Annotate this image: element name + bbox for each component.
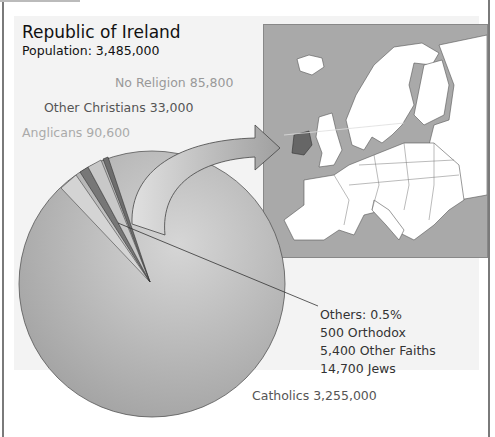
others-orthodox: 500 Orthodox (320, 324, 436, 342)
others-title: Others: 0.5% (320, 306, 436, 324)
others-jews: 14,700 Jews (320, 360, 436, 378)
others-breakdown: Others: 0.5% 500 Orthodox 5,400 Other Fa… (320, 306, 436, 378)
catholics-label: Catholics 3,255,000 (252, 388, 377, 403)
others-other-faiths: 5,400 Other Faiths (320, 342, 436, 360)
